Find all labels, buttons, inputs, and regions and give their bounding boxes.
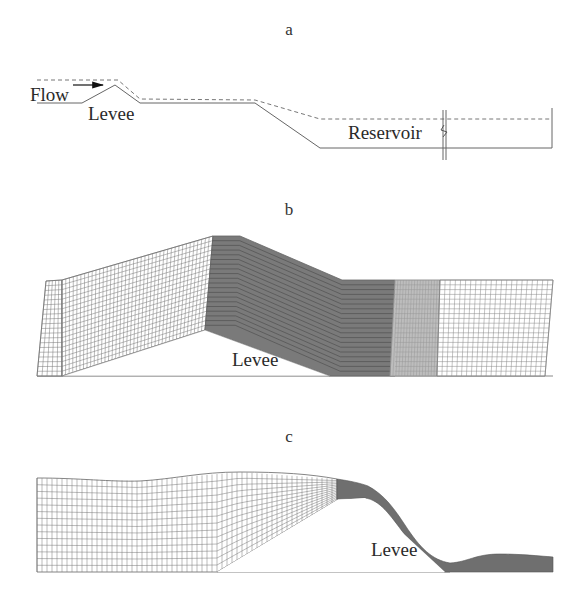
panel-a: a Flow Levee Reservoir (30, 20, 552, 160)
panel-a-label: a (285, 20, 293, 39)
levee-label-b: Levee (232, 349, 278, 370)
levee-label-a: Levee (88, 103, 134, 124)
flow-label: Flow (30, 84, 69, 105)
break-symbol-icon (441, 110, 447, 160)
panel-b-label: b (285, 200, 294, 219)
panel-c: c Levee (37, 427, 553, 572)
reservoir-label: Reservoir (348, 122, 423, 143)
levee-label-c: Levee (371, 539, 417, 560)
panel-c-label: c (285, 427, 293, 446)
figure-canvas: a Flow Levee Reservoir b (0, 0, 579, 601)
panel-b: b Levee (37, 200, 553, 376)
